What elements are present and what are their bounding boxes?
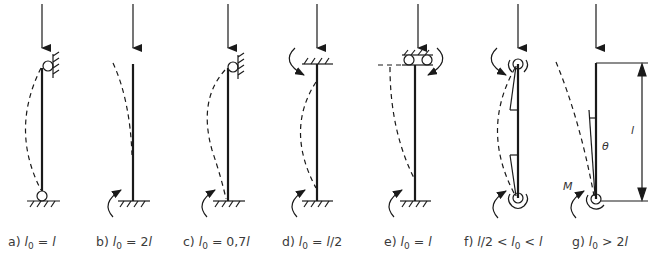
moment-symbol: M: [563, 180, 573, 193]
caption-a: a) l0 = l: [8, 234, 56, 251]
pin-support-icon: [37, 191, 47, 201]
roller-icon: [404, 55, 414, 65]
caption-f: f) l/2 < l0 < l: [464, 234, 542, 251]
caption-g: g) l0 > 2l: [572, 234, 628, 251]
moment-arrow-icon: [389, 190, 402, 217]
roller-icon: [422, 55, 432, 65]
pin-support-icon: [43, 61, 53, 71]
length-symbol: l: [631, 124, 634, 137]
case-c-diagram: [202, 4, 245, 217]
moment-arrow-icon: [571, 191, 584, 218]
case-f-diagram: [491, 4, 527, 218]
case-a-diagram: [26, 4, 61, 207]
caption-c: c) l0 = 0,7l: [183, 234, 250, 251]
pin-support-icon: [228, 62, 238, 72]
caption-e: e) l0 = l: [384, 234, 432, 251]
angle-symbol: θ: [602, 140, 609, 153]
captions: a) l0 = l b) l0 = 2l c) l0 = 0,7l d) l0 …: [0, 234, 656, 258]
moment-arrow-icon: [289, 48, 304, 75]
moment-arrow-icon: [493, 191, 506, 218]
case-b-diagram: [108, 4, 150, 217]
buckling-diagram: [0, 0, 656, 272]
moment-arrow-icon: [202, 190, 215, 217]
case-e-diagram: [378, 4, 443, 217]
moment-arrow-icon: [491, 48, 506, 75]
caption-d: d) l0 = l/2: [282, 234, 342, 251]
caption-b: b) l0 = 2l: [96, 234, 152, 251]
moment-arrow-icon: [292, 190, 305, 217]
moment-arrow-icon: [108, 190, 121, 217]
case-d-diagram: [289, 4, 333, 217]
